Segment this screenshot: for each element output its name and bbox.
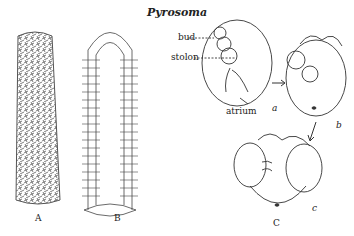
panel-label-a: A (35, 213, 42, 223)
panel-label-c: C (273, 218, 280, 228)
sublabel-b: b (336, 120, 342, 130)
label-atrium: atrium (226, 106, 257, 116)
colony-section-drawing (82, 33, 138, 217)
pyrosoma-illustration (0, 0, 354, 236)
panel-label-b: B (114, 213, 121, 223)
zooid-c-drawing (234, 134, 322, 206)
zooid-b-drawing (286, 36, 346, 116)
label-stolon: stolon (171, 52, 199, 62)
zooid-a-drawing (188, 20, 272, 106)
label-bud: bud (178, 32, 195, 42)
sublabel-c: c (312, 203, 317, 213)
colony-exterior-drawing (16, 32, 60, 204)
sublabel-a: a (272, 103, 277, 113)
